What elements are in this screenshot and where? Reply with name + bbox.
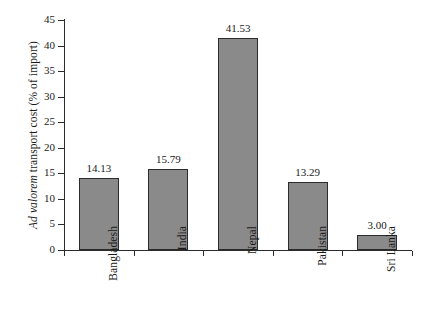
y-axis-tick-mark: [58, 97, 64, 98]
bar-value-label: 13.29: [278, 167, 338, 178]
x-axis-category-label: Nepal: [245, 226, 259, 316]
y-axis-tick-mark: [58, 71, 64, 72]
x-axis-tick-mark: [412, 251, 413, 256]
y-axis-title-rest: transport cost (% of import): [27, 41, 39, 175]
y-axis-tick-label: 20: [44, 142, 55, 153]
y-axis-tick-mark: [58, 148, 64, 149]
bar-chart-figure: Ad valorem transport cost (% of import) …: [0, 0, 424, 321]
x-axis-tick-mark: [273, 251, 274, 256]
bar-value-label: 15.79: [138, 154, 198, 165]
bar: [218, 38, 258, 250]
x-axis-tick-mark: [64, 251, 65, 256]
y-axis-tick-mark: [58, 20, 64, 21]
y-axis-line: [64, 19, 65, 251]
y-axis-tick-mark: [58, 224, 64, 225]
bar-value-label: 14.13: [69, 163, 129, 174]
y-axis-tick-label: 40: [44, 40, 55, 51]
y-axis-title: Ad valorem transport cost (% of import): [22, 10, 44, 260]
y-axis-tick-mark: [58, 122, 64, 123]
bar-value-label: 41.53: [208, 23, 268, 34]
x-axis-tick-mark: [342, 251, 343, 256]
x-axis-tick-mark: [203, 251, 204, 256]
y-axis-tick-label: 15: [44, 167, 55, 178]
y-axis-tick-mark: [58, 46, 64, 47]
y-axis-tick-mark: [58, 199, 64, 200]
y-axis-tick-label: 35: [44, 65, 55, 76]
x-axis-category-label: Pakistan: [315, 226, 329, 316]
y-axis-tick-mark: [58, 173, 64, 174]
y-axis-tick-label: 30: [44, 91, 55, 102]
y-axis-tick-label: 10: [44, 193, 55, 204]
y-axis-tick-label: 25: [44, 116, 55, 127]
x-axis-category-label: Bangladesh: [106, 226, 120, 316]
y-axis-tick-label: 0: [50, 244, 56, 255]
y-axis-tick-label: 45: [44, 14, 55, 25]
y-axis-tick-label: 5: [50, 218, 56, 229]
x-axis-category-label: India: [175, 226, 189, 316]
bar-value-label: 3.00: [347, 220, 407, 231]
x-axis-category-label: Sri Lanka: [384, 226, 398, 316]
y-axis-title-italic-part: Ad valorem: [27, 175, 39, 229]
x-axis-tick-mark: [134, 251, 135, 256]
